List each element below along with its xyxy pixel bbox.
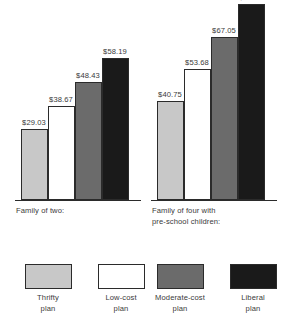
group-caption-family-of-four: Family of four with pre-school children: — [152, 206, 284, 227]
legend-swatch-low-cost — [98, 264, 145, 289]
bar-value-label: $48.43 — [71, 71, 105, 80]
bar-thrifty-family-of-two[interactable] — [21, 129, 48, 200]
bar-value-label: $40.75 — [153, 90, 187, 99]
bar-group-family-of-four: $40.75 $53.68 $67.05 $80.52 — [157, 0, 265, 200]
grouped-bar-chart: $29.03 $38.67 $48.43 $58.19 $40.75 $53.6… — [0, 0, 292, 328]
baseline-axis-family-of-four — [151, 200, 277, 201]
bar-liberal-family-of-four[interactable] — [238, 4, 265, 200]
bar-value-label: $58.19 — [98, 47, 132, 56]
bar-value-label: $67.05 — [207, 26, 241, 35]
legend-label-thrifty: Thrifty plan — [14, 293, 82, 314]
legend-item-liberal[interactable]: Liberal plan — [219, 264, 287, 314]
legend-item-thrifty[interactable]: Thrifty plan — [14, 264, 82, 314]
legend-swatch-thrifty — [25, 264, 72, 289]
bar-group-family-of-two: $29.03 $38.67 $48.43 $58.19 — [21, 0, 129, 200]
bar-low-cost-family-of-two[interactable] — [48, 106, 75, 200]
legend-label-low-cost: Low-cost plan — [87, 293, 155, 314]
legend-item-low-cost[interactable]: Low-cost plan — [87, 264, 155, 314]
baseline-axis-family-of-two — [15, 200, 141, 201]
bar-value-label: $38.67 — [44, 95, 78, 104]
bar-moderate-cost-family-of-four[interactable] — [211, 37, 238, 201]
bar-low-cost-family-of-four[interactable] — [184, 69, 211, 200]
bar-value-label: $80.52 — [234, 0, 268, 2]
legend: Thrifty plan Low-cost plan Moderate-cost… — [0, 264, 292, 328]
bar-liberal-family-of-two[interactable] — [102, 58, 129, 200]
plot-area: $29.03 $38.67 $48.43 $58.19 $40.75 $53.6… — [0, 0, 292, 232]
legend-label-moderate-cost: Moderate-cost plan — [146, 293, 214, 314]
legend-swatch-liberal — [230, 264, 277, 289]
bar-value-label: $53.68 — [180, 58, 214, 67]
bar-value-label: $29.03 — [17, 118, 51, 127]
legend-item-moderate-cost[interactable]: Moderate-cost plan — [146, 264, 214, 314]
bar-thrifty-family-of-four[interactable] — [157, 101, 184, 200]
group-caption-family-of-two: Family of two: — [16, 206, 141, 217]
bar-moderate-cost-family-of-two[interactable] — [75, 82, 102, 200]
legend-label-liberal: Liberal plan — [219, 293, 287, 314]
legend-swatch-moderate-cost — [157, 264, 204, 289]
